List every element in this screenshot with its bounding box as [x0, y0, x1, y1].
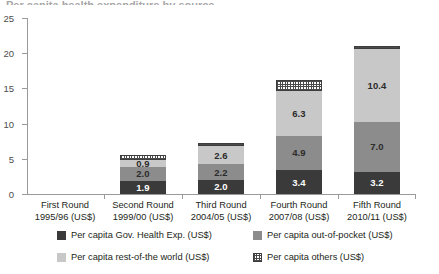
- legend-label: Per capita Gov. Health Exp. (US$): [71, 230, 212, 240]
- value-label: 6.3: [292, 108, 306, 119]
- segment-out-of-pocket-fifth[interactable]: 7.0: [354, 122, 400, 171]
- y-tick-0: 0: [22, 194, 27, 195]
- value-label: 2.6: [214, 150, 228, 161]
- segment-out-of-pocket-second[interactable]: 2.0: [120, 167, 166, 181]
- y-tick-25: 25: [22, 18, 27, 19]
- segment-rest-of-world-third[interactable]: 2.6: [198, 146, 244, 164]
- legend-label: Per capita others (US$): [267, 252, 364, 262]
- legend-item-out-of-pocket[interactable]: Per capita out-of-pocket (US$): [253, 230, 393, 240]
- category-line-2: 2010/11 (US$): [330, 211, 424, 223]
- legend-label: Per capita rest-of-the world (US$): [71, 252, 209, 262]
- segment-gov-health-third[interactable]: 2.0: [198, 180, 244, 194]
- y-tick-20: 20: [22, 53, 27, 54]
- legend-item-others[interactable]: Per capita others (US$): [253, 252, 364, 262]
- y-tick-label-15: 15: [3, 83, 14, 94]
- segment-others-fourth[interactable]: [276, 80, 322, 91]
- plot-area: 25 20 15 10 5 0 0.9 2.0: [27, 18, 416, 194]
- value-label: 2.0: [214, 181, 228, 192]
- bar-fourth-round[interactable]: 6.3 4.9 3.4: [276, 80, 322, 194]
- value-label: 10.4: [368, 80, 387, 91]
- segment-out-of-pocket-fourth[interactable]: 4.9: [276, 136, 322, 171]
- bar-second-round[interactable]: 0.9 2.0 1.9: [120, 155, 166, 194]
- stacked-bar-chart: Per capita health expenditure by source …: [0, 0, 439, 274]
- x-axis-line: [27, 194, 416, 195]
- segment-out-of-pocket-third[interactable]: 2.2: [198, 164, 244, 180]
- chart-legend: Per capita Gov. Health Exp. (US$) Per ca…: [57, 230, 429, 272]
- legend-label: Per capita out-of-pocket (US$): [267, 230, 393, 240]
- segment-rest-of-world-fifth[interactable]: 10.4: [354, 49, 400, 122]
- gov-swatch-icon: [57, 231, 66, 240]
- others-swatch-icon: [253, 253, 262, 262]
- row-swatch-icon: [57, 253, 66, 262]
- segment-rest-of-world-fourth[interactable]: 6.3: [276, 91, 322, 135]
- value-label: 1.9: [136, 182, 150, 193]
- y-tick-label-20: 20: [3, 48, 14, 59]
- chart-title-cropped: Per capita health expenditure by source: [6, 0, 336, 5]
- value-label: 3.4: [292, 177, 306, 188]
- y-tick-10: 10: [22, 124, 27, 125]
- category-label-fifth-round: Fifth Round 2010/11 (US$): [330, 199, 424, 223]
- segment-gov-health-fifth[interactable]: 3.2: [354, 172, 400, 195]
- legend-item-gov-health[interactable]: Per capita Gov. Health Exp. (US$): [57, 230, 212, 240]
- segment-gov-health-second[interactable]: 1.9: [120, 181, 166, 194]
- category-line-1: Fifth Round: [330, 199, 424, 211]
- value-label: 3.2: [370, 177, 384, 188]
- bar-third-round[interactable]: 2.6 2.2 2.0: [198, 143, 244, 194]
- y-tick-label-10: 10: [3, 118, 14, 129]
- legend-item-rest-of-world[interactable]: Per capita rest-of-the world (US$): [57, 252, 209, 262]
- value-label: 7.0: [370, 141, 384, 152]
- y-tick-label-0: 0: [9, 189, 14, 200]
- y-tick-label-25: 25: [3, 13, 14, 24]
- y-tick-label-5: 5: [9, 153, 14, 164]
- oop-swatch-icon: [253, 231, 262, 240]
- segment-gov-health-fourth[interactable]: 3.4: [276, 170, 322, 194]
- y-axis-line: [27, 18, 28, 194]
- bar-fifth-round[interactable]: 10.4 7.0 3.2: [354, 46, 400, 194]
- y-tick-5: 5: [22, 159, 27, 160]
- value-label: 2.0: [136, 168, 150, 179]
- value-label: 4.9: [292, 147, 306, 158]
- value-label: 2.2: [214, 167, 228, 178]
- y-tick-15: 15: [22, 88, 27, 89]
- x-axis-category-labels: First Round 1995/96 (US$) Second Round 1…: [27, 199, 416, 225]
